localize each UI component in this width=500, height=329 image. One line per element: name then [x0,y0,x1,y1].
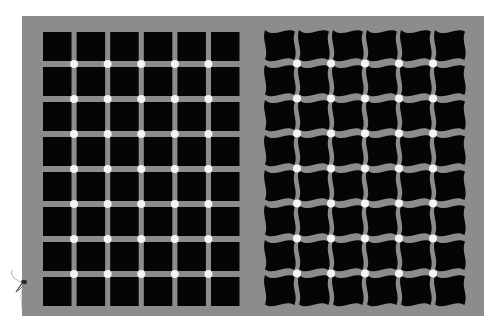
wavy-tile [264,30,296,61]
white-dot [293,60,301,68]
insect-antenna [11,270,22,283]
grid-tile [211,207,240,236]
wavy-tile [298,100,330,131]
wavy-tile [298,275,330,306]
wavy-tile [264,65,296,96]
grid-tile [177,102,206,131]
grid-tile [43,277,72,306]
grid-tile [110,242,139,271]
white-dot [361,235,369,243]
grid-tile [144,207,173,236]
white-dot [171,165,179,173]
grid-tile [77,242,106,271]
grid-tile [110,67,139,96]
wavy-tile [366,65,398,96]
white-dot [137,200,145,208]
white-dot [429,165,437,173]
grid-tile [43,207,72,236]
white-dot [429,200,437,208]
wavy-tile [366,170,398,201]
white-dot [104,270,112,278]
wavy-tile [264,240,296,271]
white-dot [70,165,78,173]
white-dot [171,270,179,278]
grid-tile [110,207,139,236]
wavy-tile [332,205,364,236]
white-dot [104,60,112,68]
grid-tile [43,137,72,166]
white-dot [104,95,112,103]
grid-tile [43,67,72,96]
illusion-figure: Scintillating grid illusion [0,0,500,329]
grid-tile [77,67,106,96]
grid-tile [110,172,139,201]
grid-tile [77,207,106,236]
grid-tile [110,277,139,306]
wavy-tile [434,240,466,271]
white-dot [171,60,179,68]
wavy-tile [434,205,466,236]
wavy-tile [298,30,330,61]
grid-tile [177,67,206,96]
wavy-tile [332,240,364,271]
white-dot [293,200,301,208]
white-dot [327,165,335,173]
wavy-tile [400,240,432,271]
white-dot [137,235,145,243]
wavy-tile [400,135,432,166]
white-dot [361,165,369,173]
grid-tile [144,242,173,271]
white-dot [204,95,212,103]
white-dot [104,165,112,173]
white-dot [104,200,112,208]
white-dot [204,165,212,173]
wavy-tile [298,135,330,166]
white-dot [429,130,437,138]
white-dot [293,95,301,103]
white-dot [137,60,145,68]
white-dot [171,235,179,243]
white-dot [293,235,301,243]
wavy-tile [264,100,296,131]
wavy-tile [366,205,398,236]
grid-tile [211,32,240,61]
white-dot [395,235,403,243]
white-dot [137,95,145,103]
grid-tile [77,137,106,166]
wavy-tile [400,205,432,236]
grid-tile [177,242,206,271]
grid-tile [144,67,173,96]
wavy-tile [332,135,364,166]
grid-tile [144,32,173,61]
white-dot [327,60,335,68]
white-dot [327,235,335,243]
wavy-tile [366,30,398,61]
wavy-tile [264,135,296,166]
grid-tile [177,32,206,61]
grid-tile [211,242,240,271]
wavy-tile [434,275,466,306]
white-dot [293,270,301,278]
wavy-tile [434,170,466,201]
white-dot [429,95,437,103]
white-dot [70,60,78,68]
white-dot [70,95,78,103]
wavy-tile [332,100,364,131]
white-dot [171,200,179,208]
wavy-tile [264,205,296,236]
wavy-tile [366,100,398,131]
wavy-tile [434,65,466,96]
white-dot [204,270,212,278]
white-dot [395,60,403,68]
wavy-tile [400,275,432,306]
grid-tile [110,137,139,166]
grid-tile [177,207,206,236]
white-dot [395,270,403,278]
grid-tile [77,102,106,131]
wavy-tile [400,100,432,131]
white-dot [361,60,369,68]
white-dot [429,235,437,243]
white-dot [327,95,335,103]
white-dot [395,200,403,208]
wavy-tile [264,170,296,201]
